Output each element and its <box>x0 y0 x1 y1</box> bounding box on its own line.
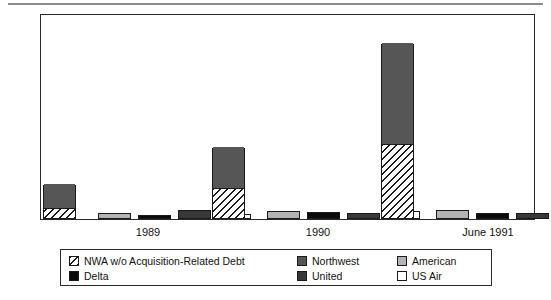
bar-june1991-american <box>436 210 469 219</box>
legend-swatch-united-icon <box>297 271 307 281</box>
legend-item-american: American <box>397 254 456 268</box>
bar-segment-nwa-acquisition-debt <box>382 145 413 218</box>
bar-1989-nwa <box>43 185 76 219</box>
bar-segment-divider <box>44 208 75 209</box>
legend-label-usair: US Air <box>412 270 442 282</box>
bar-1990-nwa <box>212 148 245 219</box>
x-axis-label-1990: 1990 <box>306 226 330 238</box>
legend-swatch-northwest-icon <box>297 256 307 266</box>
legend-swatch-usair-icon <box>397 271 407 281</box>
bar-1990-american <box>267 211 300 219</box>
legend-label-northwest: Northwest <box>312 255 359 267</box>
bar-segment-nwa-acquisition-debt <box>213 189 244 218</box>
legend-label-united: United <box>312 270 342 282</box>
bar-june1991-nwa <box>381 44 414 219</box>
bar-segment-northwest <box>213 147 244 189</box>
legend-column-2: Northwest United <box>297 254 359 284</box>
bar-1989-united <box>178 210 211 219</box>
bar-segment-northwest <box>44 184 75 209</box>
legend-swatch-american-icon <box>397 256 407 266</box>
bar-segment-nwa-acquisition-debt <box>44 209 75 218</box>
bar-june1991-delta <box>476 213 509 220</box>
legend-label-american: American <box>412 255 456 267</box>
chart-legend: NWA w/o Acquisition-Related Debt Delta N… <box>60 249 492 286</box>
legend-swatch-hatch-icon <box>69 256 79 266</box>
x-axis-label-1989: 1989 <box>136 226 160 238</box>
bar-1990-united <box>347 213 380 220</box>
legend-column-1: NWA w/o Acquisition-Related Debt Delta <box>69 254 245 284</box>
legend-swatch-delta-icon <box>69 271 79 281</box>
bar-segment-divider <box>382 144 413 145</box>
bar-segment-divider <box>213 188 244 189</box>
legend-item-united: United <box>297 269 359 283</box>
bar-june1991-united <box>516 213 549 219</box>
bar-1989-american <box>98 213 131 219</box>
bar-series-container <box>41 15 534 219</box>
bar-1989-delta <box>138 215 171 219</box>
x-axis-label-june-1991: June 1991 <box>462 226 513 238</box>
legend-label-delta: Delta <box>84 270 109 282</box>
bar-segment-northwest <box>382 43 413 145</box>
legend-item-nwa: NWA w/o Acquisition-Related Debt <box>69 254 245 268</box>
legend-item-northwest: Northwest <box>297 254 359 268</box>
chart-figure: 35 30 25 20 15 10 5 0 <box>0 0 551 300</box>
legend-item-delta: Delta <box>69 269 245 283</box>
legend-label-nwa: NWA w/o Acquisition-Related Debt <box>84 255 245 267</box>
legend-column-3: American US Air <box>397 254 456 284</box>
y-axis: 35 30 25 20 15 10 5 0 <box>0 0 40 300</box>
bar-1990-delta <box>307 212 340 219</box>
legend-item-usair: US Air <box>397 269 456 283</box>
top-rule-divider <box>8 3 543 5</box>
